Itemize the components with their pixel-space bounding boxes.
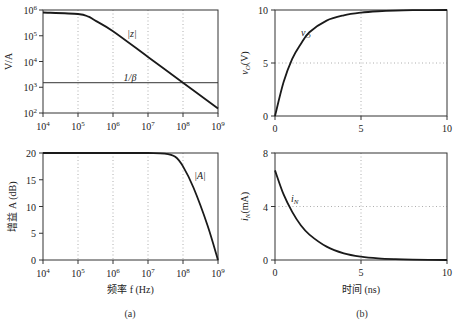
gain-curve-label: |A| [194,170,206,181]
panel-impedance-plot: 102103104105106104105106107108109V/A|z|1… [3,4,225,132]
y-tick-label: 104 [24,56,38,68]
in-curve [275,170,447,260]
x-tick-label: 106 [106,267,120,279]
y-tick-label: 10 [26,202,36,213]
y-tick-label: 4 [263,202,268,213]
x-tick-label: 105 [71,120,85,132]
x-tick-label: 0 [273,267,278,278]
gain-curve [43,153,218,260]
x-tick-label: 10 [442,123,452,134]
x-tick-label: 109 [211,120,225,132]
x-tick-label: 109 [211,267,225,279]
x-tick-label: 5 [359,123,364,134]
y-tick-label: 5 [31,228,36,239]
y-tick-label: 15 [26,175,36,186]
y-axis-label: vO(V) [239,51,252,74]
x-tick-label: 104 [36,120,50,132]
y-tick-label: 10 [258,5,268,16]
y-tick-label: 106 [24,4,38,16]
y-axis-label: V/A [3,52,14,70]
y-tick-label: 8 [263,148,268,159]
x-tick-label: 107 [141,267,155,279]
x-tick-label: 106 [106,120,120,132]
y-tick-label: 5 [263,58,268,69]
y-tick-label: 103 [24,81,38,93]
x-tick-label: 108 [176,267,190,279]
y-tick-label: 105 [24,30,38,42]
x-tick-label: 5 [359,267,364,278]
figure-canvas: 102103104105106104105106107108109V/A|z|1… [0,0,457,331]
y-tick-label: 102 [24,107,38,119]
y-tick-label: 20 [26,148,36,159]
y-tick-label: 0 [263,111,268,122]
y-axis-label: iN(mA) [239,192,252,221]
y-axis-label: 增益 A (dB) [6,182,19,232]
in-curve-label: iN [291,193,299,206]
vo-curve-label: vO [301,27,311,40]
x-axis-label: 频率 f (Hz) [107,283,154,296]
y-tick-label: 0 [263,255,268,266]
x-axis-label: 时间 (ns) [342,283,380,296]
x-tick-label: 105 [71,267,85,279]
panel-in-plot: 0480510iN(mA)时间 (ns)iN [239,148,452,296]
x-tick-label: 104 [36,267,50,279]
x-tick-label: 107 [141,120,155,132]
panel-vo-plot: 05100510vO(V)vO [239,5,452,134]
y-tick-label: 0 [31,255,36,266]
beta-curve-label: 1/β [124,72,137,83]
x-tick-label: 10 [442,267,452,278]
caption-b: (b) [356,308,368,320]
plot-frame [43,10,218,113]
caption-a: (a) [124,308,135,320]
z-curve-label: |z| [127,28,136,39]
z-curve [43,12,218,108]
plot-frame [43,153,218,260]
x-tick-label: 108 [176,120,190,132]
panel-gain-plot: 05101520104105106107108109增益 A (dB)频率 f … [6,148,225,296]
x-tick-label: 0 [273,123,278,134]
